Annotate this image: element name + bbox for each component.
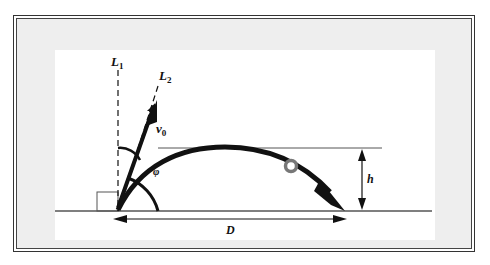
trajectory-arrow [118,147,330,210]
label-l2: L2 [158,68,172,85]
label-phi: φ [153,165,160,177]
ball [286,161,297,172]
right-angle-marker [97,192,118,211]
projectile-diagram: L1 L2 v0 φ h D [0,0,490,265]
label-h: h [367,172,374,186]
label-l1: L1 [110,54,124,71]
angle-arc-phi [128,178,158,211]
d-arrow-head-left [113,215,127,223]
h-arrow-head-bottom [358,198,366,210]
label-d: D [225,223,235,237]
label-v0: v0 [156,121,167,138]
d-arrow-head-right [333,215,347,223]
h-arrow-head-top [358,149,366,161]
trajectory-arrow-head [314,180,345,211]
